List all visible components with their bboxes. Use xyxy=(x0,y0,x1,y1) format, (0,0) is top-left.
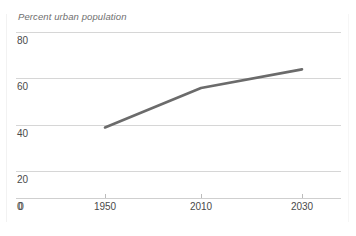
series-line-urban-population xyxy=(105,69,302,127)
plot-area: 80 60 40 20 0 0 1950 2010 2030 xyxy=(0,0,356,236)
series-layer xyxy=(0,0,356,236)
chart-container: Percent urban population 80 60 40 20 0 0… xyxy=(0,0,356,236)
